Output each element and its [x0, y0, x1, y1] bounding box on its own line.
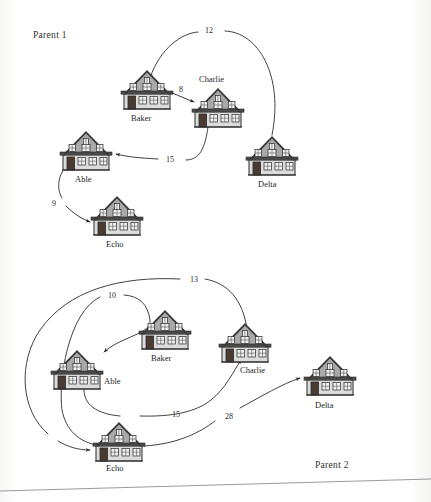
node-label-charlie-p2: Charlie: [240, 365, 265, 375]
scanned-page: Parent 1 Parent 2 Baker Charlie Delta Ab…: [0, 0, 431, 502]
house-charlie-p1[interactable]: [192, 88, 244, 127]
node-label-baker-p1: Baker: [131, 113, 151, 123]
house-delta-p2[interactable]: [304, 356, 356, 395]
page-edge-line: [0, 479, 431, 491]
graph-1-nodes: [60, 70, 298, 235]
house-able-p1[interactable]: [60, 131, 112, 170]
edge-p1-able-echo-head: [66, 206, 90, 222]
graph-2-nodes: [51, 310, 356, 461]
node-label-delta-p2: Delta: [315, 400, 333, 410]
node-label-delta-p1: Delta: [258, 179, 276, 189]
edge-p2-able-charlie-b: [140, 360, 241, 416]
node-label-echo-p1: Echo: [106, 239, 123, 249]
section-label-parent-1: Parent 1: [33, 30, 67, 40]
node-label-able-p1: Able: [75, 174, 92, 184]
edge-weight-p2-13: 13: [190, 275, 198, 284]
house-able-p2[interactable]: [51, 350, 103, 389]
house-delta-p1[interactable]: [246, 136, 298, 175]
edge-p2-echo-delta: [144, 421, 215, 446]
edge-weight-p2-10: 10: [108, 291, 116, 300]
edge-p1-delta-baker-head: [150, 32, 198, 78]
edge-weight-p1-12: 12: [205, 26, 213, 35]
house-echo-p1[interactable]: [91, 196, 143, 235]
edge-p1-charlie-able: [186, 127, 208, 160]
node-label-charlie-p1: Charlie: [199, 74, 224, 84]
edge-weight-p2-28: 28: [225, 412, 233, 421]
edge-weight-p1-9: 9: [52, 199, 56, 208]
edge-weight-p2-15: 15: [172, 410, 180, 419]
node-label-baker-p2: Baker: [151, 353, 171, 363]
node-label-echo-p2: Echo: [106, 463, 123, 473]
house-echo-p2[interactable]: [93, 422, 145, 461]
edge-p2-charlie-echo-head: [58, 441, 90, 450]
edge-p2-able-charlie: [84, 390, 120, 416]
section-label-parent-2: Parent 2: [315, 460, 349, 470]
edge-p2-echo-delta-b: [240, 378, 300, 408]
house-charlie-p2[interactable]: [219, 323, 271, 362]
edge-weight-p1-8: 8: [179, 85, 183, 94]
edge-weight-p1-15: 15: [166, 155, 174, 164]
house-baker-p1[interactable]: [121, 70, 173, 109]
edge-p2-charlie-echo: [205, 279, 247, 329]
edge-p1-baker-charlie: [172, 93, 194, 102]
edge-p1-charlie-able-head: [116, 154, 158, 159]
node-label-able-p2: Able: [104, 376, 121, 386]
house-baker-p2[interactable]: [139, 310, 191, 349]
